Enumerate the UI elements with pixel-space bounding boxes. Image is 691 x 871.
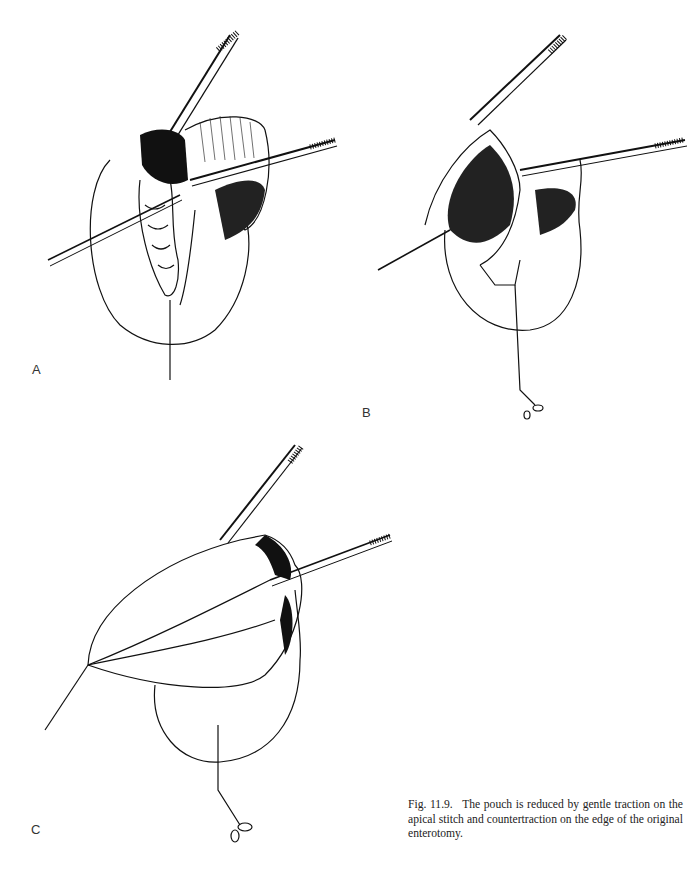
surgical-drawing-b [370,30,690,420]
surgical-drawing-a [40,30,350,390]
panel-label-b: B [362,405,371,420]
panel-a-illustration [40,30,350,390]
panel-label-a: A [32,362,41,377]
surgical-drawing-c [40,440,400,860]
panel-label-c: C [31,822,40,837]
figure-number: Fig. 11.9. [408,798,453,811]
panel-b-illustration [370,30,690,420]
panel-c-illustration [40,440,400,860]
figure-caption: Fig. 11.9. The pouch is reduced by gentl… [408,798,683,842]
